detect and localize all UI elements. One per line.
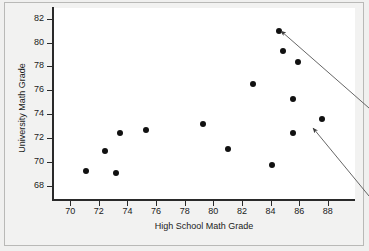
y-tick (47, 114, 52, 115)
data-point (319, 116, 325, 122)
x-tick-label: 74 (115, 206, 139, 216)
y-tick (47, 186, 52, 187)
y-tick-label: 76 (24, 84, 44, 94)
y-tick (47, 43, 52, 44)
y-tick (47, 162, 52, 163)
y-tick-label: 80 (24, 37, 44, 47)
x-axis-title: High School Math Grade (53, 221, 355, 231)
y-tick-label: 74 (24, 108, 44, 118)
data-point (113, 170, 119, 176)
x-tick-label: 82 (230, 206, 254, 216)
y-tick-label: 82 (24, 13, 44, 23)
x-tick-label: 84 (259, 206, 283, 216)
data-point (225, 146, 231, 152)
x-tick-label: 88 (316, 206, 340, 216)
y-tick (47, 138, 52, 139)
plot-area (53, 8, 355, 200)
data-point (295, 59, 301, 65)
y-axis-line (52, 7, 54, 201)
x-tick-label: 80 (201, 206, 225, 216)
x-tick-label: 76 (144, 206, 168, 216)
y-tick (47, 66, 52, 67)
data-point (143, 127, 149, 133)
y-tick (47, 90, 52, 91)
y-tick-label: 78 (24, 60, 44, 70)
data-point (200, 121, 206, 127)
y-tick-label: 70 (24, 156, 44, 166)
x-axis-line (52, 199, 355, 201)
x-tick-label: 70 (58, 206, 82, 216)
y-tick (47, 19, 52, 20)
y-tick-label: 68 (24, 180, 44, 190)
y-axis-title: University Math Grade (17, 28, 27, 188)
data-point (276, 28, 282, 34)
y-tick-label: 72 (24, 132, 44, 142)
x-tick-label: 86 (287, 206, 311, 216)
scatter-plot-figure: 70727476788082848688 6870727476788082 Hi… (0, 0, 369, 251)
x-tick-label: 78 (173, 206, 197, 216)
data-point (102, 148, 108, 154)
x-tick-label: 72 (87, 206, 111, 216)
